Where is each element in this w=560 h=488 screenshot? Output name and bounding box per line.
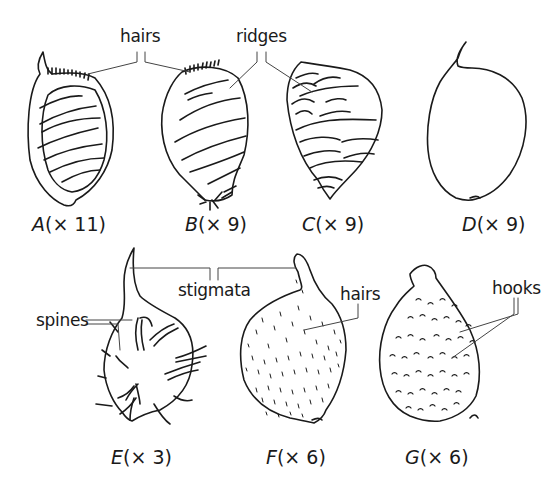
- caption-c: C(× 9): [302, 213, 364, 235]
- fruit-a-drawing: [28, 52, 113, 206]
- caption-f-mag: (× 6): [277, 446, 326, 468]
- caption-a-mag: (× 11): [45, 213, 106, 235]
- caption-c-mag: (× 9): [315, 213, 364, 235]
- label-ridges: ridges: [236, 26, 287, 46]
- caption-b-mag: (× 9): [198, 213, 247, 235]
- caption-e: E(× 3): [111, 446, 172, 468]
- label-spines: spines: [36, 310, 89, 330]
- fruit-d-drawing: [428, 42, 527, 200]
- label-hairs-f: hairs: [340, 284, 380, 304]
- caption-d-mag: (× 9): [477, 213, 526, 235]
- caption-b-letter: B: [185, 213, 198, 235]
- caption-a-letter: A: [32, 213, 45, 235]
- fruit-c-drawing: [287, 62, 382, 199]
- leader-lines: [86, 52, 518, 358]
- fruit-g-drawing: [380, 265, 480, 421]
- label-stigmata: stigmata: [178, 280, 251, 300]
- caption-e-mag: (× 3): [123, 446, 172, 468]
- caption-f: F(× 6): [266, 446, 326, 468]
- caption-f-letter: F: [266, 446, 277, 468]
- caption-a: A(× 11): [32, 213, 106, 235]
- caption-g-mag: (× 6): [420, 446, 469, 468]
- fruit-diagram: [0, 0, 560, 488]
- hairs-dots-f: [246, 280, 341, 417]
- caption-g: G(× 6): [405, 446, 469, 468]
- caption-e-letter: E: [111, 446, 123, 468]
- caption-c-letter: C: [302, 213, 315, 235]
- fruit-e-drawing: [96, 248, 206, 424]
- caption-d: D(× 9): [462, 213, 526, 235]
- caption-d-letter: D: [462, 213, 477, 235]
- caption-g-letter: G: [405, 446, 420, 468]
- fruit-f-drawing: [241, 254, 346, 423]
- label-hooks: hooks: [492, 278, 541, 298]
- caption-b: B(× 9): [185, 213, 247, 235]
- label-hairs-top: hairs: [120, 26, 160, 46]
